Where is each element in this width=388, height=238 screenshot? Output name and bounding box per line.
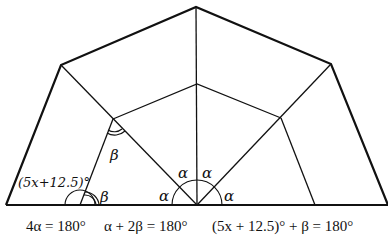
left-leg-arc	[65, 190, 95, 205]
diagonal-right	[197, 64, 331, 205]
beta-arc-outer	[85, 192, 99, 205]
geometry-diagram: α α α α β β (5x+12.5)° 4α = 180° α + 2β …	[0, 0, 388, 238]
equation-1: 4α = 180°	[26, 218, 86, 234]
expression-label: (5x+12.5)°	[18, 175, 90, 190]
angle-arcs	[65, 129, 222, 205]
beta-inner-arc-inner	[108, 129, 122, 132]
inner-lines	[61, 7, 331, 205]
equation-2: α + 2β = 180°	[104, 218, 187, 234]
alpha-label-upper-right: α	[202, 164, 212, 182]
alpha-label-lower-right: α	[224, 187, 234, 205]
alpha-label-lower-left: α	[159, 187, 169, 205]
right-leg	[281, 118, 315, 205]
beta-label-inner: β	[109, 146, 119, 164]
vertical-axis	[196, 7, 197, 205]
equation-3: (5x + 12.5)° + β = 180°	[212, 218, 353, 235]
beta-label-bottom: β	[99, 188, 109, 206]
alpha-label-upper-left: α	[178, 164, 188, 182]
beta-arc-inner	[84, 195, 96, 205]
